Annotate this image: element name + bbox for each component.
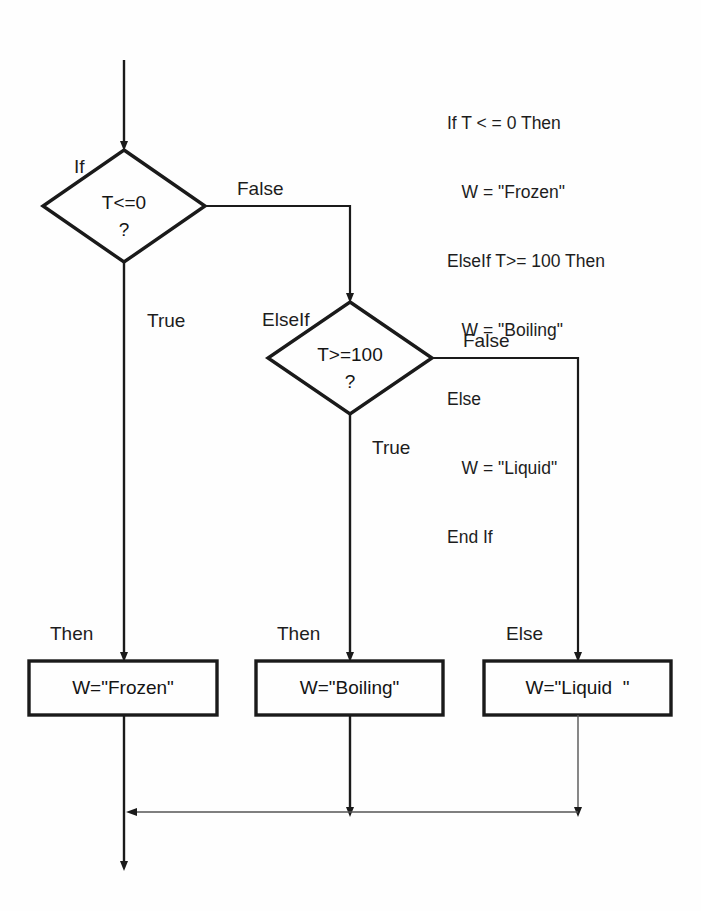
process-2-text: W="Boiling" (256, 677, 443, 699)
edge-d1-false (205, 206, 350, 298)
pseudocode-line: If T < = 0 Then (447, 112, 605, 135)
decision-1-condition: T<=0 (44, 192, 204, 214)
decision-1-question: ? (44, 219, 204, 241)
decision-1-caption: If (74, 157, 85, 176)
pseudocode-line: W = "Frozen" (447, 181, 605, 204)
decision-2-condition: T>=100 (270, 344, 430, 366)
process-1-text: W="Frozen" (29, 677, 217, 699)
pseudocode-line: End If (447, 526, 605, 549)
decision-1-true-label: True (147, 311, 185, 330)
pseudocode-line: ElseIf T>= 100 Then (447, 250, 605, 273)
flowchart-canvas: If T < = 0 Then W = "Frozen" ElseIf T>= … (0, 0, 701, 911)
process-1-caption: Then (50, 624, 93, 643)
decision-2-false-label: False (463, 331, 509, 350)
process-2-caption: Then (277, 624, 320, 643)
decision-2-question: ? (270, 371, 430, 393)
pseudocode-line: W = "Liquid" (447, 457, 605, 480)
process-3-caption: Else (506, 624, 543, 643)
pseudocode-line: Else (447, 388, 605, 411)
process-3-text: W="Liquid " (484, 677, 671, 699)
decision-2-true-label: True (372, 438, 410, 457)
decision-1-false-label: False (237, 179, 283, 198)
decision-2-caption: ElseIf (262, 310, 310, 329)
